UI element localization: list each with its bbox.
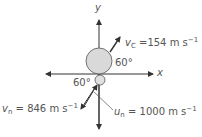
u-n-exponent: −1	[186, 105, 196, 113]
v-c-exponent: −1	[188, 36, 198, 44]
u-n-leader-line	[94, 92, 113, 110]
v-n-value: 846	[27, 103, 46, 114]
y-axis-label: y	[95, 3, 101, 13]
collision-diagram: y x 60° 60° vC =154 m s−1 vn = 846 m s−1…	[0, 0, 202, 137]
v-c-arrow	[110, 37, 120, 52]
v-n-arrow	[81, 86, 96, 109]
v-c-unit: m s	[170, 37, 188, 48]
neutron-circle	[95, 75, 105, 85]
x-axis-label: x	[157, 68, 163, 78]
v-c-label: vC =154 m s−1	[125, 37, 198, 50]
u-n-equals: =	[128, 106, 136, 117]
v-n-exponent: −1	[68, 102, 78, 110]
v-c-subscript: C	[131, 42, 136, 50]
v-n-label: vn = 846 m s−1	[2, 103, 78, 116]
u-n-subscript: n	[120, 111, 124, 119]
v-n-equals: =	[16, 103, 24, 114]
neutron-angle-label: 60°	[73, 78, 91, 88]
carbon-angle-label: 60°	[115, 58, 133, 68]
u-n-unit: m s	[168, 106, 186, 117]
v-n-unit: m s	[49, 103, 67, 114]
v-n-subscript: n	[8, 108, 12, 116]
u-n-label: un = 1000 m s−1	[114, 106, 197, 119]
carbon-nucleus-circle	[86, 48, 112, 74]
u-n-value: 1000	[140, 106, 165, 117]
v-c-value: 154	[147, 37, 166, 48]
